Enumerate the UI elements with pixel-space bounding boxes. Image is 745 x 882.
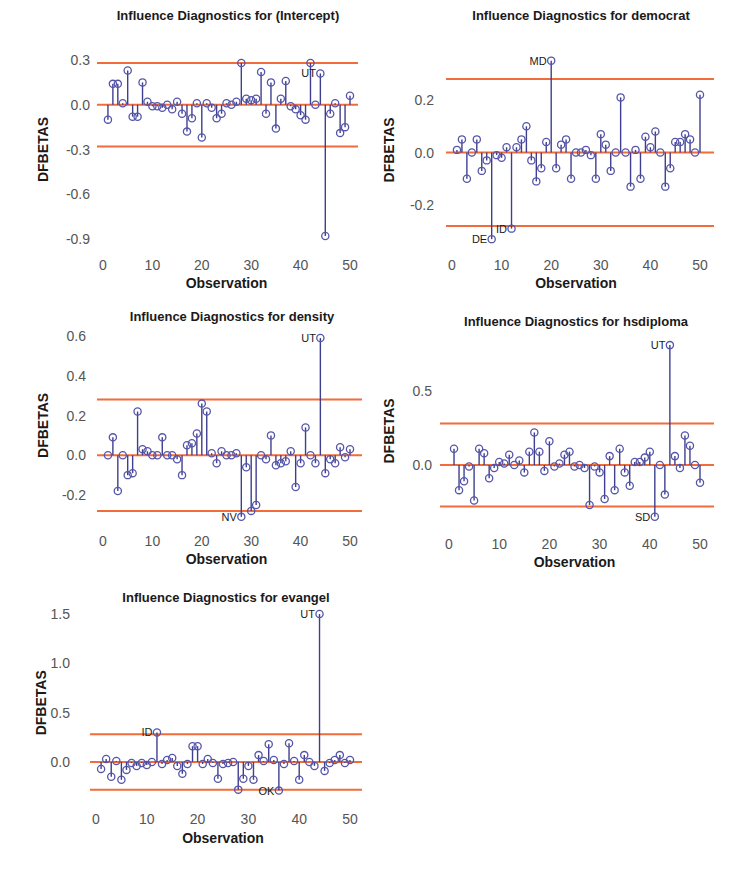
y-tick-label: 0.3 bbox=[71, 52, 91, 68]
x-tick-label: 50 bbox=[342, 811, 358, 827]
x-tick-label: 10 bbox=[139, 811, 155, 827]
y-tick-label: 0.5 bbox=[413, 383, 433, 399]
point-label: UT bbox=[301, 332, 316, 344]
y-tick-label: 0.2 bbox=[67, 408, 87, 424]
chart-hsdiploma: Influence Diagnostics for hsdiploma0.50.… bbox=[372, 300, 745, 580]
y-tick-label: -0.2 bbox=[62, 487, 86, 503]
x-tick-label: 40 bbox=[642, 536, 658, 552]
x-tick-label: 30 bbox=[593, 257, 609, 273]
y-tick-label: -0.6 bbox=[66, 186, 90, 202]
chart-title: Influence Diagnostics for evangel bbox=[122, 590, 329, 605]
x-tick-label: 50 bbox=[692, 257, 708, 273]
data-point bbox=[501, 460, 508, 467]
x-tick-label: 0 bbox=[448, 257, 456, 273]
chart-title: Influence Diagnostics for (Intercept) bbox=[117, 8, 339, 23]
x-axis-label: Observation bbox=[186, 275, 268, 291]
point-label: OK bbox=[258, 785, 275, 797]
x-tick-label: 20 bbox=[194, 533, 210, 549]
chart-title: Influence Diagnostics for density bbox=[130, 309, 335, 324]
x-tick-label: 0 bbox=[99, 533, 107, 549]
point-label: NV bbox=[222, 511, 238, 523]
x-axis-label: Observation bbox=[535, 275, 617, 291]
x-tick-label: 30 bbox=[243, 533, 259, 549]
x-tick-label: 30 bbox=[243, 257, 259, 273]
point-label: MD bbox=[530, 55, 547, 67]
x-axis-label: Observation bbox=[182, 830, 264, 846]
y-axis-label: DFBETAS bbox=[35, 117, 51, 182]
x-tick-label: 10 bbox=[491, 536, 507, 552]
y-tick-label: 0.0 bbox=[51, 754, 71, 770]
x-tick-label: 50 bbox=[342, 257, 358, 273]
x-tick-label: 40 bbox=[293, 533, 309, 549]
chart-democrat: Influence Diagnostics for democrat0.20.0… bbox=[372, 0, 745, 300]
x-tick-label: 10 bbox=[145, 533, 161, 549]
x-tick-label: 0 bbox=[92, 811, 100, 827]
y-axis-label: DFBETAS bbox=[381, 117, 397, 182]
x-tick-label: 30 bbox=[592, 536, 608, 552]
x-tick-label: 0 bbox=[99, 257, 107, 273]
point-label: ID bbox=[141, 726, 152, 738]
x-tick-label: 10 bbox=[494, 257, 510, 273]
y-tick-label: -0.9 bbox=[66, 231, 90, 247]
point-label: UT bbox=[651, 339, 666, 351]
chart-density: Influence Diagnostics for density0.60.40… bbox=[0, 300, 372, 580]
x-axis-label: Observation bbox=[534, 554, 616, 570]
x-tick-label: 0 bbox=[445, 536, 453, 552]
point-label: UT bbox=[300, 608, 315, 620]
x-tick-label: 30 bbox=[241, 811, 257, 827]
chart-evangel: Influence Diagnostics for evangel1.51.00… bbox=[0, 580, 372, 882]
point-label: DE bbox=[472, 233, 487, 245]
x-tick-label: 10 bbox=[145, 257, 161, 273]
y-tick-label: 0.2 bbox=[415, 92, 435, 108]
y-axis-label: DFBETAS bbox=[381, 398, 397, 463]
y-tick-label: 0.6 bbox=[67, 328, 87, 344]
y-tick-label: -0.3 bbox=[66, 142, 90, 158]
y-axis-label: DFBETAS bbox=[35, 393, 51, 458]
chart-intercept: Influence Diagnostics for (Intercept)0.3… bbox=[0, 0, 372, 300]
x-tick-label: 20 bbox=[190, 811, 206, 827]
y-tick-label: 0.4 bbox=[67, 368, 87, 384]
chart-title: Influence Diagnostics for hsdiploma bbox=[464, 314, 689, 329]
x-tick-label: 50 bbox=[692, 536, 708, 552]
x-tick-label: 40 bbox=[293, 257, 309, 273]
x-tick-label: 20 bbox=[542, 536, 558, 552]
point-label: ID bbox=[496, 223, 507, 235]
x-tick-label: 20 bbox=[543, 257, 559, 273]
y-tick-label: 0.0 bbox=[71, 97, 91, 113]
chart-title: Influence Diagnostics for democrat bbox=[472, 8, 690, 23]
point-label: SD bbox=[635, 511, 650, 523]
y-tick-label: 0.0 bbox=[67, 447, 87, 463]
point-label: UT bbox=[301, 67, 316, 79]
y-tick-label: 1.5 bbox=[51, 606, 71, 622]
y-tick-label: -0.2 bbox=[410, 197, 434, 213]
y-tick-label: 0.5 bbox=[51, 705, 71, 721]
x-tick-label: 20 bbox=[194, 257, 210, 273]
x-tick-label: 40 bbox=[291, 811, 307, 827]
y-tick-label: 0.0 bbox=[413, 457, 433, 473]
x-axis-label: Observation bbox=[186, 551, 268, 567]
x-tick-label: 50 bbox=[342, 533, 358, 549]
x-tick-label: 40 bbox=[643, 257, 659, 273]
y-tick-label: 0.0 bbox=[415, 145, 435, 161]
y-tick-label: 1.0 bbox=[51, 655, 71, 671]
y-axis-label: DFBETAS bbox=[33, 670, 49, 735]
